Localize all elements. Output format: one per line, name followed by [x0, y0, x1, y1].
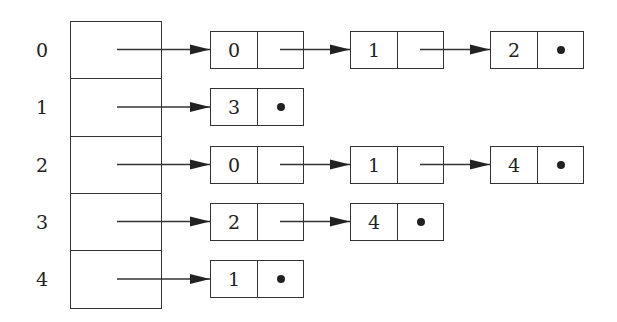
list-node: 2 — [490, 31, 584, 69]
null-pointer-dot-icon — [277, 103, 285, 111]
node-next-pointer — [258, 147, 303, 183]
list-node: 3 — [210, 88, 304, 126]
node-next-pointer — [398, 147, 443, 183]
node-next-pointer — [258, 32, 303, 68]
vertex-index-label: 0 — [27, 40, 57, 60]
null-pointer-dot-icon — [417, 218, 425, 226]
node-value: 3 — [211, 89, 258, 125]
list-node: 4 — [490, 146, 584, 184]
node-value: 2 — [491, 32, 538, 68]
list-node: 1 — [210, 260, 304, 298]
node-next-pointer — [258, 89, 303, 125]
node-value: 2 — [211, 204, 258, 240]
node-value: 0 — [211, 32, 258, 68]
null-pointer-dot-icon — [557, 161, 565, 169]
node-value: 1 — [351, 32, 398, 68]
array-cell-1 — [70, 78, 162, 137]
vertex-index-label: 1 — [27, 97, 57, 117]
list-node: 1 — [350, 31, 444, 69]
array-cell-3 — [70, 193, 162, 251]
node-next-pointer — [538, 32, 583, 68]
list-node: 0 — [210, 31, 304, 69]
node-value: 0 — [211, 147, 258, 183]
vertex-index-label: 3 — [27, 212, 57, 232]
node-value: 1 — [211, 261, 258, 297]
list-node: 2 — [210, 203, 304, 241]
adjacency-list-diagram: 01234 0123014241 — [0, 0, 617, 322]
vertex-index-label: 4 — [27, 269, 57, 289]
array-cell-4 — [70, 250, 162, 309]
list-node: 4 — [350, 203, 444, 241]
node-value: 4 — [491, 147, 538, 183]
null-pointer-dot-icon — [557, 46, 565, 54]
node-next-pointer — [258, 204, 303, 240]
list-node: 0 — [210, 146, 304, 184]
vertex-index-label: 2 — [27, 155, 57, 175]
list-node: 1 — [350, 146, 444, 184]
array-cell-2 — [70, 136, 162, 194]
node-next-pointer — [398, 204, 443, 240]
node-value: 1 — [351, 147, 398, 183]
null-pointer-dot-icon — [277, 275, 285, 283]
node-next-pointer — [398, 32, 443, 68]
node-value: 4 — [351, 204, 398, 240]
node-next-pointer — [258, 261, 303, 297]
node-next-pointer — [538, 147, 583, 183]
array-cell-0 — [70, 21, 162, 79]
